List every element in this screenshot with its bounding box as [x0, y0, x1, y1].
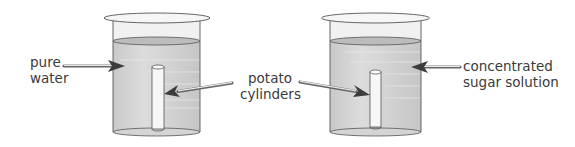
label-sugar-solution: concentrated sugar solution	[463, 58, 559, 90]
beaker-rim	[322, 13, 430, 23]
beaker-left	[104, 13, 210, 136]
potato-cylinder	[152, 65, 164, 131]
beaker-rim	[104, 13, 210, 23]
label-line: sugar solution	[463, 74, 559, 90]
liquid-surface	[330, 37, 421, 45]
label-potato-cylinders: potato cylinders	[240, 70, 300, 102]
potato-cylinder	[370, 70, 381, 129]
beaker-right	[322, 13, 430, 136]
label-line: water	[30, 70, 68, 86]
label-pure-water: pure water	[30, 54, 68, 86]
liquid-surface	[113, 37, 200, 45]
label-line: cylinders	[240, 86, 300, 102]
label-line: concentrated	[463, 58, 559, 74]
label-line: pure	[30, 54, 68, 70]
label-line: potato	[240, 70, 300, 86]
